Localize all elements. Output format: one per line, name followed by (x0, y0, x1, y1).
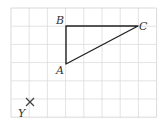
square-grid (11, 8, 157, 117)
point-label-y: Y (18, 107, 27, 120)
vertex-label-b: B (55, 14, 64, 27)
vertex-label-a: A (55, 64, 64, 77)
vertex-label-c: C (139, 20, 148, 33)
geometry-diagram: B C A Y (0, 0, 164, 124)
